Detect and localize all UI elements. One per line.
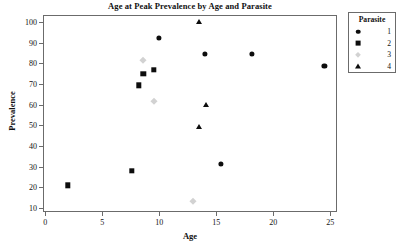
data-point-series-2: [151, 67, 156, 72]
x-axis-tick-label: 0: [43, 218, 47, 227]
legend-box: Parasite 1234: [348, 12, 396, 73]
legend-label-2: 2: [387, 38, 391, 49]
plot-area: [43, 15, 337, 212]
y-axis-tick-label: 80: [7, 59, 37, 68]
data-point-series-4: [196, 124, 202, 129]
legend-title: Parasite: [349, 15, 395, 24]
legend-item-2[interactable]: 2: [349, 38, 395, 49]
y-axis-tick: [39, 167, 43, 168]
legend-marker-square-icon: [354, 38, 362, 49]
data-point-series-2: [141, 71, 146, 76]
data-point-series-1: [249, 52, 254, 57]
data-point-series-1: [157, 35, 162, 40]
y-axis-tick: [39, 105, 43, 106]
y-axis-tick-label: 20: [7, 183, 37, 192]
y-axis-tick: [39, 146, 43, 147]
data-point-series-1: [322, 63, 327, 68]
legend-marker-triangle-icon: [354, 61, 362, 72]
x-axis-tick-label: 15: [212, 218, 220, 227]
y-axis-tick: [39, 125, 43, 126]
x-axis-tick-label: 10: [155, 218, 163, 227]
data-point-series-1: [202, 52, 207, 57]
legend-label-3: 3: [387, 49, 391, 60]
chart-title: Age at Peak Prevalence by Age and Parasi…: [43, 1, 337, 11]
y-axis-tick: [39, 187, 43, 188]
y-axis-tick: [39, 22, 43, 23]
data-point-series-4: [196, 19, 202, 24]
x-axis-tick-label: 5: [100, 218, 104, 227]
chart-root: Age at Peak Prevalence by Age and Parasi…: [0, 0, 402, 250]
data-point-series-4: [203, 102, 209, 107]
x-axis-tick-label: 25: [326, 218, 334, 227]
x-axis-tick: [216, 212, 217, 216]
x-axis-tick: [330, 212, 331, 216]
y-axis-tick: [39, 43, 43, 44]
legend-label-1: 1: [387, 26, 391, 37]
legend-item-4[interactable]: 4: [349, 61, 395, 72]
x-axis-tick: [102, 212, 103, 216]
y-axis-tick-label: 30: [7, 162, 37, 171]
x-axis-tick: [273, 212, 274, 216]
x-axis-label: Age: [43, 231, 337, 241]
legend-label-4: 4: [387, 61, 391, 72]
y-axis-tick-label: 10: [7, 203, 37, 212]
y-axis-tick-label: 90: [7, 38, 37, 47]
y-axis-tick: [39, 208, 43, 209]
legend-item-3[interactable]: 3: [349, 49, 395, 60]
y-axis-tick: [39, 84, 43, 85]
data-point-series-1: [218, 161, 223, 166]
data-point-series-2: [136, 82, 141, 87]
data-point-series-3: [150, 97, 156, 103]
x-axis-tick: [45, 212, 46, 216]
y-axis-tick: [39, 63, 43, 64]
data-point-series-2: [65, 182, 70, 187]
x-axis-tick-label: 20: [269, 218, 277, 227]
y-axis-tick-label: 100: [7, 18, 37, 27]
legend-item-1[interactable]: 1: [349, 26, 395, 37]
data-point-series-3: [140, 57, 146, 63]
data-point-series-2: [129, 168, 134, 173]
legend-marker-diamond-icon: [354, 49, 362, 60]
data-point-series-3: [190, 197, 196, 203]
x-axis-tick: [159, 212, 160, 216]
legend-marker-circle-icon: [354, 26, 362, 37]
y-axis-label: Prevalence: [7, 71, 17, 151]
